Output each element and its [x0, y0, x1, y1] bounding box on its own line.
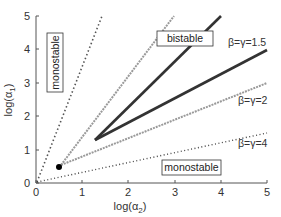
series-label-beta-gamma-1.5: β=γ=1.5: [228, 36, 266, 48]
x-tick-label: 4: [218, 186, 224, 198]
monostable-label-bottom: monostable: [162, 160, 221, 175]
y-axis-label: log(α1): [2, 84, 17, 117]
y-tick-label: 1: [24, 144, 30, 156]
boundary-line-beta-gamma-4: [37, 133, 267, 182]
x-tick-label: 5: [264, 186, 270, 198]
svg-text:bistable: bistable: [167, 32, 203, 44]
x-axis-label: log(α2): [114, 200, 147, 215]
series-label-beta-gamma-2: β=γ=2: [238, 94, 268, 106]
phase-diagram: 0 1 2 3 4 5 0 1 2 3 4 5 log(α2) log(α1) …: [0, 0, 281, 217]
series-label-beta-gamma-4: β=γ=4: [238, 137, 268, 149]
cusp-marker: [56, 164, 62, 170]
y-tick-label: 5: [24, 10, 30, 22]
x-tick-label: 3: [172, 186, 178, 198]
y-tick-label: 3: [24, 77, 30, 89]
svg-text:monostable: monostable: [49, 35, 61, 89]
bistable-label: bistable: [157, 31, 213, 46]
y-tick-label: 4: [24, 43, 30, 55]
x-tick-label: 2: [125, 186, 131, 198]
svg-text:monostable: monostable: [164, 161, 218, 173]
y-tick-label: 2: [24, 110, 30, 122]
y-ticks: 0 1 2 3 4 5: [24, 10, 39, 189]
x-tick-label: 1: [79, 186, 85, 198]
monostable-label-top: monostable: [47, 33, 63, 92]
y-tick-label: 0: [24, 177, 30, 189]
x-tick-label: 0: [33, 186, 39, 198]
